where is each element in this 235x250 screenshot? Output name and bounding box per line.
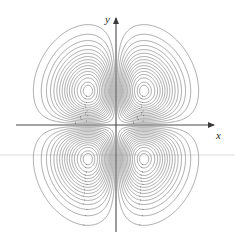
x-axis-label: x [216, 130, 221, 141]
contour-plot-canvas [0, 0, 235, 250]
y-axis-label: y [105, 14, 110, 25]
contour-plot-figure: x y [0, 0, 235, 250]
